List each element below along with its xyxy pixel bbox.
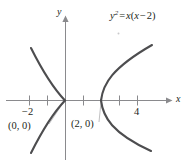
x-tick-label-4: 4	[134, 107, 139, 118]
point-label-origin: (0, 0)	[8, 121, 31, 132]
plot-canvas	[0, 0, 187, 166]
scan-artifact-dot	[118, 33, 120, 35]
equation-equals: =	[118, 10, 126, 21]
y-axis-label: y	[57, 7, 61, 17]
curve-right-branch	[101, 45, 152, 151]
x-axis	[6, 97, 173, 103]
y-axis	[62, 16, 68, 161]
equation-minus: −	[139, 10, 147, 21]
x-axis-label: x	[176, 94, 180, 104]
equation-label: y2=x(x−2)	[110, 11, 156, 22]
equation-close-paren: )	[152, 10, 156, 21]
x-tick-label-minus-2: −2	[22, 107, 33, 118]
graph-figure: y x −2 4 (0, 0) (2, 0) y2=x(x−2)	[0, 0, 187, 166]
point-label-vertex: (2, 0)	[71, 119, 94, 130]
